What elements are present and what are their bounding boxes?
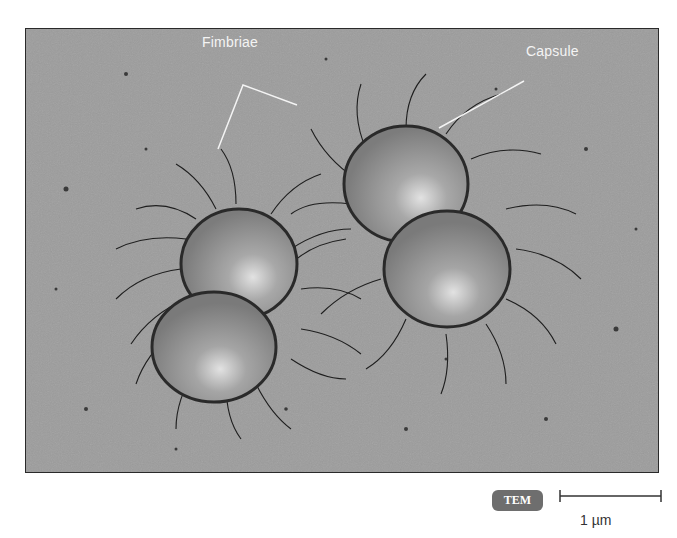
tem-badge: TEM (492, 490, 543, 511)
scale-bar-label: 1 µm (580, 512, 611, 528)
scale-bar (559, 488, 663, 504)
micrograph-illustration (26, 29, 659, 473)
micrograph-frame: Fimbriae Capsule (25, 28, 659, 473)
fimbriae-label: Fimbriae (202, 34, 258, 50)
capsule-label: Capsule (526, 43, 579, 59)
